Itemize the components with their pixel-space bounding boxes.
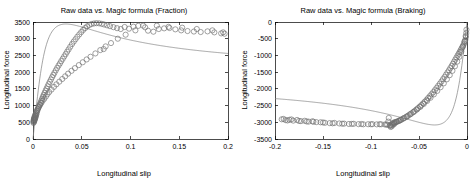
data-point: [111, 25, 116, 30]
data-point: [205, 29, 210, 34]
data-point: [107, 24, 112, 29]
y-axis-title-fraction: Longitudinal force: [2, 50, 11, 109]
data-point: [93, 51, 98, 56]
y-axis-title-braking: Longitudinal force: [240, 50, 249, 109]
x-tick-label: -0.1: [365, 143, 377, 150]
y-tick-label: 1500: [14, 85, 30, 92]
raw-data-markers: [31, 21, 227, 126]
data-point: [173, 27, 178, 32]
y-tick-label: 3500: [14, 19, 30, 26]
data-point: [145, 28, 150, 33]
y-tick-label: 2500: [14, 52, 30, 59]
x-tick-label: 0.05: [75, 143, 89, 150]
plot-title-fraction: Raw data vs. Magic formula (Fraction): [61, 6, 188, 15]
data-point: [114, 26, 119, 31]
data-point: [108, 40, 113, 45]
plot-panel-fraction: Raw data vs. Magic formula (Fraction) 00…: [0, 0, 237, 181]
y-tick-label: 2000: [14, 69, 30, 76]
magic-formula-curve: [275, 22, 467, 125]
y-tick-label: 0: [26, 136, 30, 143]
y-tick-label: -500: [258, 35, 272, 42]
data-point: [88, 54, 93, 59]
data-point: [222, 31, 227, 36]
fraction-plot-area: 00.050.10.150.20500100015002000250030003…: [14, 19, 233, 150]
x-tick-label: 0.2: [223, 143, 233, 150]
data-point: [84, 57, 89, 62]
x-tick-label: -0.05: [411, 143, 427, 150]
x-tick-label: -0.15: [315, 143, 331, 150]
data-point: [166, 24, 171, 29]
y-tick-label: -1000: [254, 52, 272, 59]
x-tick-label: 0: [31, 143, 35, 150]
x-tick-label: 0.1: [126, 143, 136, 150]
data-point: [123, 32, 128, 37]
x-tick-label: 0: [465, 143, 469, 150]
plot-panel-braking: Raw data vs. Magic formula (Braking) -0.…: [237, 0, 475, 181]
y-tick-label: 1000: [14, 102, 30, 109]
y-tick-label: -2000: [254, 85, 272, 92]
y-tick-label: -3500: [254, 136, 272, 143]
y-tick-label: 0: [268, 19, 272, 26]
raw-data-markers: [279, 27, 469, 129]
y-tick-label: -3000: [254, 119, 272, 126]
y-tick-label: -1500: [254, 69, 272, 76]
plot-title-braking: Raw data vs. Magic formula (Braking): [300, 6, 426, 15]
data-point: [151, 29, 156, 34]
y-tick-label: 3000: [14, 35, 30, 42]
data-point: [98, 47, 103, 52]
x-tick-label: 0.15: [172, 143, 186, 150]
figure-root: Raw data vs. Magic formula (Fraction) 00…: [0, 0, 475, 181]
braking-plot-area: -0.2-0.15-0.1-0.050-3500-3000-2500-2000-…: [254, 19, 469, 150]
braking-plot-svg: Raw data vs. Magic formula (Braking) -0.…: [237, 0, 475, 181]
y-tick-label: 500: [18, 119, 30, 126]
axes-frame: [33, 22, 228, 139]
x-axis-title-fraction: Longitudinal slip: [97, 169, 151, 178]
data-point: [69, 68, 74, 73]
fraction-plot-svg: Raw data vs. Magic formula (Fraction) 00…: [0, 0, 237, 181]
data-point: [185, 28, 190, 33]
x-axis-title-braking: Longitudinal slip: [336, 169, 390, 178]
x-tick-label: -0.2: [269, 143, 281, 150]
data-point: [221, 30, 226, 35]
y-tick-label: -2500: [254, 102, 272, 109]
data-point: [457, 54, 462, 59]
